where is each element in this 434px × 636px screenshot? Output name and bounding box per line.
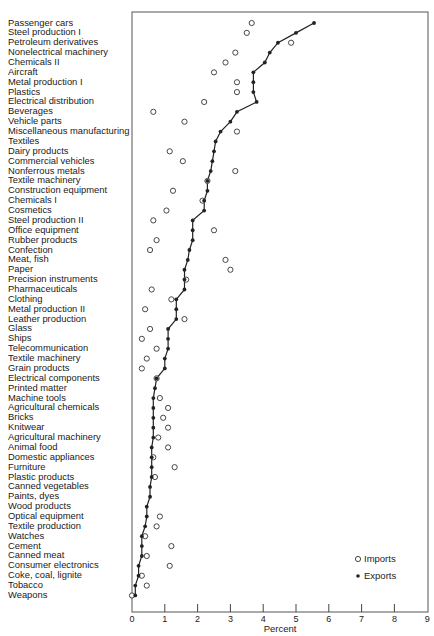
imports-point bbox=[223, 257, 228, 262]
exports-point bbox=[148, 495, 152, 499]
imports-point bbox=[144, 356, 149, 361]
imports-point bbox=[144, 553, 149, 558]
exports-point bbox=[183, 288, 187, 292]
exports-point bbox=[150, 446, 154, 450]
imports-point bbox=[151, 109, 156, 114]
imports-point bbox=[165, 445, 170, 450]
imports-point bbox=[228, 267, 233, 272]
exports-point bbox=[174, 307, 178, 311]
imports-point bbox=[147, 326, 152, 331]
exports-point bbox=[268, 51, 272, 55]
imports-point bbox=[180, 159, 185, 164]
exports-point bbox=[174, 317, 178, 321]
x-tick-label: 1 bbox=[162, 614, 167, 624]
x-tick-label: 2 bbox=[195, 614, 200, 624]
exports-point bbox=[155, 376, 159, 380]
imports-point bbox=[244, 30, 249, 35]
imports-point bbox=[157, 395, 162, 400]
imports-point bbox=[144, 583, 149, 588]
imports-point bbox=[164, 208, 169, 213]
x-axis-title: Percent bbox=[264, 623, 297, 634]
imports-point bbox=[233, 168, 238, 173]
exports-point bbox=[276, 41, 280, 45]
exports-point bbox=[140, 544, 144, 548]
exports-point bbox=[229, 120, 233, 124]
imports-point bbox=[139, 366, 144, 371]
imports-point bbox=[223, 60, 228, 65]
exports-legend-icon bbox=[356, 574, 360, 578]
exports-point bbox=[150, 475, 154, 479]
imports-point bbox=[157, 514, 162, 519]
imports-point bbox=[170, 188, 175, 193]
imports-point bbox=[182, 317, 187, 322]
exports-legend-label: Exports bbox=[364, 570, 396, 581]
exports-point bbox=[153, 386, 157, 390]
x-tick-label: 0 bbox=[129, 614, 134, 624]
exports-point bbox=[188, 248, 192, 252]
exports-point bbox=[166, 327, 170, 331]
imports-point bbox=[139, 336, 144, 341]
exports-point bbox=[191, 238, 195, 242]
exports-point bbox=[202, 199, 206, 203]
legend: Imports Exports bbox=[355, 553, 396, 581]
exports-point bbox=[263, 61, 267, 65]
imports-point bbox=[147, 247, 152, 252]
exports-point bbox=[206, 179, 210, 183]
x-tick-label: 6 bbox=[326, 614, 331, 624]
exports-point bbox=[151, 416, 155, 420]
imports-point bbox=[154, 524, 159, 529]
exports-point bbox=[202, 209, 206, 213]
exports-point bbox=[151, 436, 155, 440]
exports-point bbox=[191, 219, 195, 223]
exports-point bbox=[143, 524, 147, 528]
imports-point bbox=[167, 563, 172, 568]
imports-point bbox=[143, 307, 148, 312]
imports-point bbox=[165, 405, 170, 410]
exports-point bbox=[145, 505, 149, 509]
exports-point bbox=[255, 100, 259, 104]
imports-point bbox=[167, 149, 172, 154]
exports-point bbox=[186, 258, 190, 262]
imports-point bbox=[249, 20, 254, 25]
exports-point bbox=[212, 149, 216, 153]
exports-point bbox=[183, 278, 187, 282]
exports-point bbox=[235, 110, 239, 114]
imports-point bbox=[202, 99, 207, 104]
exports-point bbox=[294, 31, 298, 35]
exports-point bbox=[140, 534, 144, 538]
exports-point bbox=[140, 554, 144, 558]
exports-point bbox=[183, 268, 187, 272]
imports-point bbox=[211, 70, 216, 75]
x-axis: 0123456789 bbox=[129, 604, 429, 624]
exports-point bbox=[150, 455, 154, 459]
exports-point bbox=[150, 465, 154, 469]
exports-point bbox=[191, 228, 195, 232]
exports-point bbox=[166, 347, 170, 351]
exports-point bbox=[206, 189, 210, 193]
imports-point bbox=[234, 89, 239, 94]
exports-point bbox=[251, 70, 255, 74]
imports-point bbox=[169, 544, 174, 549]
imports-point bbox=[182, 119, 187, 124]
exports-markers bbox=[133, 21, 316, 597]
imports-legend-label: Imports bbox=[364, 553, 396, 564]
exports-point bbox=[251, 90, 255, 94]
imports-markers bbox=[129, 20, 293, 598]
imports-point bbox=[169, 297, 174, 302]
imports-point bbox=[165, 425, 170, 430]
exports-point bbox=[312, 21, 316, 25]
imports-point bbox=[288, 40, 293, 45]
exports-point bbox=[133, 594, 137, 598]
exports-point bbox=[148, 485, 152, 489]
exports-point bbox=[214, 140, 218, 144]
x-tick-label: 9 bbox=[425, 614, 430, 624]
imports-point bbox=[233, 50, 238, 55]
imports-point bbox=[154, 346, 159, 351]
dot-plot: 0123456789 Percent Imports Exports bbox=[0, 0, 434, 636]
exports-point bbox=[163, 367, 167, 371]
imports-point bbox=[234, 80, 239, 85]
imports-point bbox=[211, 228, 216, 233]
imports-point bbox=[161, 415, 166, 420]
exports-point bbox=[145, 515, 149, 519]
exports-point bbox=[151, 406, 155, 410]
